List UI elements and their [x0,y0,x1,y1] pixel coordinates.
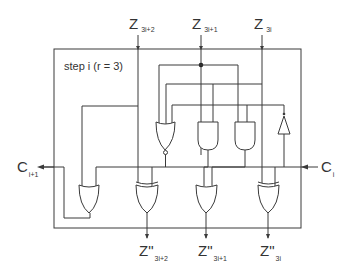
carry-out-label: Ci+1 [17,158,38,176]
step-label: step i (r = 3) [64,60,123,72]
arrow-icon [301,165,308,170]
input-label-z3i2: Z3i+2 [129,15,155,33]
nor-bubble [164,151,168,155]
input-label-z3i1: Z3i+1 [192,15,218,33]
wire-and2-out [212,150,245,186]
output-label-z3i: Z"3i [260,242,281,260]
buffer-gate [278,116,290,134]
and-gate-2 [235,122,255,150]
wire-buf-out [172,105,284,126]
input-label-z3i: Z3i [254,15,272,33]
or-gate-left [79,185,99,213]
wire-z3i2-tap [82,106,138,186]
output-label-z3i1: Z"3i+1 [198,242,227,260]
xor-back-arc [258,182,279,184]
arrow-icon [204,234,208,239]
wire-junction [159,65,238,126]
wire-carry-bus [96,167,301,186]
nor-gate [156,122,175,150]
and-gate-1 [198,122,218,150]
xor-gate-1 [136,185,158,213]
xor-back-arc [136,182,158,184]
arrow-icon [145,234,149,239]
wire-and1-to-or [204,167,208,186]
circuit-diagram [0,0,346,268]
carry-in-label: Ci [321,158,334,176]
or-gate-middle [196,185,217,213]
output-label-z3i2: Z"3i+2 [139,242,168,260]
arrow-icon [266,234,270,239]
xor-gate-2 [258,185,279,213]
